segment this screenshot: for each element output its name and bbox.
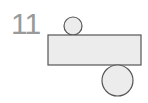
cylinder-net-figure — [0, 0, 148, 103]
large-circle — [102, 65, 133, 96]
rectangle — [48, 35, 141, 65]
small-circle — [64, 17, 82, 35]
